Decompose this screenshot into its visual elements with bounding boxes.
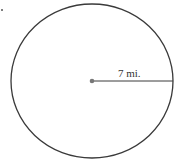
- radius-label: 7 mi.: [118, 67, 141, 79]
- center-point: [90, 79, 95, 84]
- stray-mark: [1, 9, 3, 11]
- circle-diagram: 7 mi.: [0, 0, 177, 165]
